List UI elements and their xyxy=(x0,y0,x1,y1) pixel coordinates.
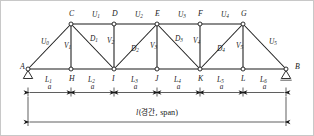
joint-A xyxy=(26,67,30,71)
node-label-A: A xyxy=(19,62,25,71)
member-label-U0: U0 xyxy=(41,37,49,46)
node-label-B: B xyxy=(295,62,300,71)
member-label-U5: U5 xyxy=(269,37,277,46)
member-label-D4: D4 xyxy=(216,44,225,53)
member-label-D3: D3 xyxy=(174,34,183,43)
joint-I xyxy=(112,67,116,71)
node-label-G: G xyxy=(241,9,247,18)
joint-G xyxy=(241,22,245,26)
member-U5 xyxy=(243,24,286,69)
node-label-L: L xyxy=(240,74,245,83)
truss-diagram-canvas: A H I J K L B C D E F G U0 U5 U1 U2 U3 U… xyxy=(1,1,314,136)
joint-B xyxy=(284,67,288,71)
joint-F xyxy=(198,22,202,26)
span-label: l(경간, span) xyxy=(136,107,178,117)
member-D3 xyxy=(157,24,200,69)
member-label-D1: D1 xyxy=(89,34,98,43)
member-label-D2: D2 xyxy=(130,44,139,53)
dim-label-panel-6: a xyxy=(263,83,267,91)
span-dimension-line: l(경간, span) xyxy=(28,97,286,126)
node-label-F: F xyxy=(197,9,203,18)
node-label-C: C xyxy=(69,9,75,18)
joint-D xyxy=(112,22,116,26)
node-labels: A H I J K L B C D E F G xyxy=(19,9,300,83)
dim-label-panel-4: a xyxy=(177,83,181,91)
member-D1 xyxy=(71,24,114,69)
node-label-I: I xyxy=(111,74,115,83)
dim-label-panel-1: a xyxy=(48,83,52,91)
node-label-E: E xyxy=(154,9,160,18)
pin-support-icon xyxy=(23,71,32,79)
roller-support-icon xyxy=(281,71,290,79)
joint-K xyxy=(198,67,202,71)
member-label-U1: U1 xyxy=(92,10,100,19)
dim-label-panel-3: a xyxy=(134,83,138,91)
member-label-V5: V5 xyxy=(236,41,244,50)
node-label-K: K xyxy=(197,74,204,83)
joint-E xyxy=(155,22,159,26)
node-label-D: D xyxy=(111,9,118,18)
member-label-U2: U2 xyxy=(135,10,143,19)
member-label-U3: U3 xyxy=(178,10,186,19)
joint-L xyxy=(241,67,245,71)
joint-H xyxy=(69,67,73,71)
member-label-U4: U4 xyxy=(221,10,229,19)
member-label-V1: V1 xyxy=(64,41,72,50)
joint-C xyxy=(69,22,73,26)
joint-J xyxy=(155,67,159,71)
dim-label-panel-2: a xyxy=(91,83,95,91)
member-label-V3: V3 xyxy=(150,41,158,50)
member-label-V4: V4 xyxy=(193,36,201,45)
node-label-H: H xyxy=(68,74,75,83)
truss-diagram-figure: A H I J K L B C D E F G U0 U5 U1 U2 U3 U… xyxy=(0,0,314,136)
dim-label-panel-5: a xyxy=(220,83,224,91)
node-label-J: J xyxy=(155,74,159,83)
panel-dimension-line: a a a a a a xyxy=(28,83,286,97)
member-label-V2: V2 xyxy=(107,36,115,45)
